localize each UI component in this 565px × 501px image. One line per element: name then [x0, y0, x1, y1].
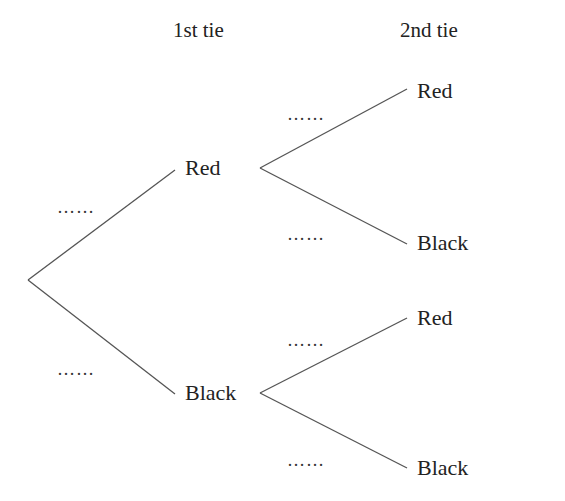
prob-blank-red-red: …… — [287, 105, 325, 123]
node-black-black: Black — [417, 457, 468, 479]
prob-blank-black-black: …… — [287, 451, 325, 469]
tree-branches — [0, 0, 565, 501]
prob-blank-black-red: …… — [287, 331, 325, 349]
branch-root-red — [28, 170, 175, 280]
branch-black-red — [260, 318, 407, 393]
header-second-tie: 2nd tie — [400, 20, 458, 41]
node-red-black: Black — [417, 232, 468, 254]
branch-root-black — [28, 280, 175, 394]
prob-blank-red-black: …… — [287, 225, 325, 243]
node-red-red: Red — [417, 80, 452, 102]
header-first-tie: 1st tie — [173, 20, 224, 41]
branch-black-black — [260, 393, 407, 468]
branch-red-red — [260, 89, 407, 168]
node-first-black: Black — [185, 382, 236, 404]
node-black-red: Red — [417, 307, 452, 329]
branch-red-black — [260, 168, 407, 244]
prob-blank-root-red: …… — [57, 198, 95, 216]
prob-blank-root-black: …… — [57, 360, 95, 378]
node-first-red: Red — [185, 157, 220, 179]
